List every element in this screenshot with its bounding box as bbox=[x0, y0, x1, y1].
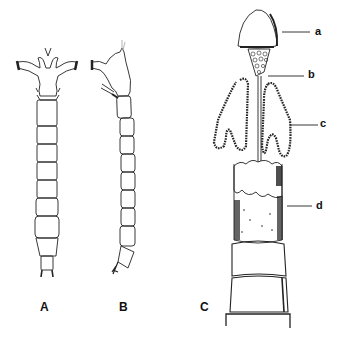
anterior-detail-drawing bbox=[214, 10, 318, 328]
part-label-c: c bbox=[320, 118, 326, 129]
figure-drawing bbox=[0, 0, 340, 337]
panel-label-a: A bbox=[40, 301, 49, 313]
panel-label-b: B bbox=[119, 301, 128, 313]
larva-lateral-drawing bbox=[92, 40, 135, 274]
larva-dorsal-drawing bbox=[17, 48, 77, 277]
part-label-a: a bbox=[315, 26, 321, 37]
panel-label-c: C bbox=[200, 301, 209, 313]
part-label-d: d bbox=[316, 200, 323, 211]
part-label-b: b bbox=[308, 69, 315, 80]
